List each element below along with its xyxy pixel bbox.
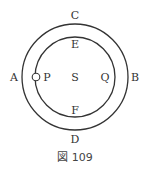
label-c: C — [71, 9, 79, 22]
small-body-icon — [32, 73, 40, 81]
diagram: C D A B E F P S Q 図 109 — [0, 0, 143, 174]
label-q: Q — [100, 71, 109, 84]
label-s: S — [71, 71, 79, 84]
label-b: B — [131, 71, 139, 84]
label-e: E — [71, 38, 79, 51]
label-a: A — [9, 71, 19, 84]
label-p: P — [43, 71, 51, 84]
label-f: F — [71, 104, 79, 117]
figure-caption: 図 109 — [57, 151, 93, 164]
label-d: D — [71, 133, 80, 146]
